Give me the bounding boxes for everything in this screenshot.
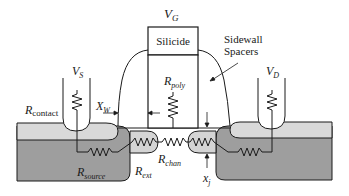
r-contact-label: Rcontact [24,103,59,118]
gate-poly-box [148,55,198,128]
xw-label: XW [95,99,111,115]
vg-label: VG [164,6,179,23]
silicide-label: Silicide [156,35,190,47]
r-ext-label: Rext [134,164,152,180]
vd-label: VD [266,64,279,80]
xj-label: xj [202,171,211,187]
xw-dimension-arrows [103,111,160,115]
r-chan-label: Rchan [157,152,181,168]
drain-extension [188,131,216,153]
vs-label: VS [72,64,83,80]
sidewall-label-line1: Sidewall [224,33,263,45]
mosfet-resistance-diagram: VG Silicide Sidewall Spacers VS VD Rcont… [0,0,349,196]
source-extension [130,131,158,153]
sidewall-label-line2: Spacers [224,45,258,57]
right-sidewall-spacer [198,50,230,126]
r-chan-resistor-icon [162,138,190,146]
left-sidewall-spacer [118,50,148,126]
